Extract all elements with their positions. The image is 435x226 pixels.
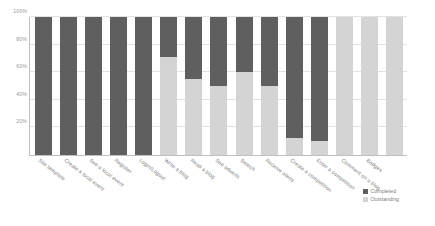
bar-stack[interactable] [160,17,177,155]
bar-slot[interactable] [282,17,307,155]
x-axis-tick-label: Search [239,157,256,172]
bar-slot[interactable] [257,17,282,155]
legend-swatch-icon [363,189,368,194]
bar-segment-completed[interactable] [160,17,177,57]
legend-item[interactable]: Completed [363,188,399,194]
bar-segment-outstanding[interactable] [361,17,378,155]
bar-stack[interactable] [336,17,353,155]
legend-label: Completed [371,188,397,194]
x-axis-tick-label: Badges [365,157,383,173]
bar-segment-completed[interactable] [286,17,303,138]
bar-stack[interactable] [210,17,227,155]
bar-segment-outstanding[interactable] [210,86,227,155]
bar-segment-completed[interactable] [236,17,253,72]
bar-slot[interactable] [232,17,257,155]
chart-legend: CompletedOutstanding [363,188,399,204]
x-axis-tick-label: Write a blog [164,157,191,180]
bar-segment-completed[interactable] [110,17,127,155]
bar-stack[interactable] [261,17,278,155]
x-axis-tick-label: Site template [38,157,67,182]
bar-stack[interactable] [236,17,253,155]
bar-slot[interactable] [56,17,81,155]
bar-segment-outstanding[interactable] [261,86,278,155]
bar-series-group [31,17,407,155]
bar-stack[interactable] [110,17,127,155]
bar-segment-completed[interactable] [210,17,227,86]
bar-slot[interactable] [156,17,181,155]
bar-stack[interactable] [135,17,152,155]
x-axis-tick-label: Read a blog [189,157,216,180]
bar-stack[interactable] [286,17,303,155]
x-axis-labels: Site templateCreate a local eventSee a l… [30,157,408,222]
legend-item[interactable]: Outstanding [363,196,399,202]
y-axis-tick-label: 80% [16,36,27,42]
bar-slot[interactable] [181,17,206,155]
bar-slot[interactable] [106,17,131,155]
bar-stack[interactable] [386,17,403,155]
bar-slot[interactable] [382,17,407,155]
bar-slot[interactable] [131,17,156,155]
bar-segment-completed[interactable] [261,17,278,86]
bar-segment-outstanding[interactable] [286,138,303,155]
bar-segment-completed[interactable] [35,17,52,155]
bar-segment-outstanding[interactable] [336,17,353,155]
y-axis-tick-label: 20% [16,118,27,124]
bar-segment-outstanding[interactable] [160,57,177,155]
x-axis-tick-label: Register [113,157,133,174]
bar-segment-outstanding[interactable] [185,79,202,155]
bar-stack[interactable] [35,17,52,155]
bar-stack[interactable] [311,17,328,155]
bar-stack[interactable] [185,17,202,155]
bar-slot[interactable] [307,17,332,155]
legend-swatch-icon [363,197,368,202]
bar-segment-completed[interactable] [185,17,202,79]
y-axis-tick-label: 60% [16,63,27,69]
bar-segment-outstanding[interactable] [311,141,328,155]
plot-area: 20%40%60%80%100% [29,17,407,156]
legend-label: Outstanding [371,196,400,202]
y-axis-tick-label: 100% [13,8,27,14]
x-axis-tick-label: See adverts [214,157,241,180]
bar-slot[interactable] [31,17,56,155]
bar-segment-completed[interactable] [135,17,152,155]
bar-slot[interactable] [81,17,106,155]
bar-segment-completed[interactable] [85,17,102,155]
bar-stack[interactable] [85,17,102,155]
bar-stack[interactable] [60,17,77,155]
bar-slot[interactable] [206,17,231,155]
bar-segment-completed[interactable] [311,17,328,141]
bar-stack[interactable] [361,17,378,155]
stacked-bar-chart: 20%40%60%80%100% Site templateCreate a l… [0,0,435,226]
y-axis-tick-label: 40% [16,91,27,97]
bar-slot[interactable] [357,17,382,155]
bar-segment-outstanding[interactable] [386,17,403,155]
bar-slot[interactable] [332,17,357,155]
bar-segment-outstanding[interactable] [236,72,253,155]
bar-segment-completed[interactable] [60,17,77,155]
